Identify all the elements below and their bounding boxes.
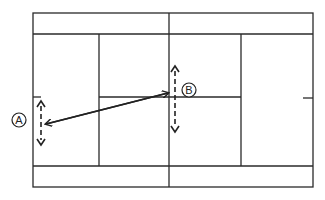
player-b-marker: B xyxy=(182,83,196,97)
player-a-marker: A xyxy=(12,113,26,127)
court-lines xyxy=(33,13,313,187)
player-a-movement-arrow xyxy=(37,101,45,145)
player-b-movement-arrow xyxy=(171,66,179,132)
court-outer-boundary xyxy=(33,13,313,187)
player-a-label: A xyxy=(15,114,23,126)
tennis-court-diagram: A B xyxy=(0,0,325,200)
player-b-label: B xyxy=(185,84,192,96)
